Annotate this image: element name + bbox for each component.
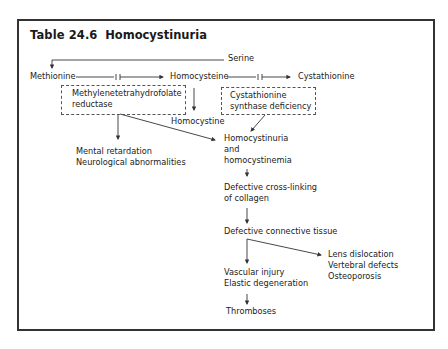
homocystinuria-line3: homocystinemia [224, 155, 292, 166]
vascular-line1: Vascular injury [224, 267, 284, 278]
vascular-line2: Elastic degeneration [224, 278, 308, 289]
collagen-line2: of collagen [224, 193, 269, 204]
connective-tissue-label: Defective connective tissue [224, 226, 337, 237]
homocystinuria-line1: Homocystinuria [224, 133, 288, 144]
serine-to-methionine-arrow [52, 60, 224, 68]
homocysteine-label: Homocysteine [170, 71, 229, 82]
mthfr-label-line2: reductase [72, 99, 113, 110]
skeletal-line3: Osteoporosis [328, 271, 381, 282]
cbs-label-line2: synthase deficiency [230, 101, 311, 112]
cbs-label-line1: Cystathionine [230, 90, 286, 101]
skeletal-line2: Vertebral defects [328, 260, 398, 271]
skeletal-line1: Lens dislocation [328, 249, 394, 260]
neuro-outcome-line2: Neurological abnormalities [76, 157, 186, 168]
cystathionine-label: Cystathionine [298, 71, 354, 82]
serine-label: Serine [228, 53, 254, 64]
pathway-arrows [0, 0, 448, 349]
methionine-label: Methionine [30, 71, 75, 82]
thromboses-label: Thromboses [226, 306, 276, 317]
neuro-outcome-line1: Mental retardation [76, 146, 152, 157]
collagen-line1: Defective cross-linking [224, 182, 317, 193]
homocystinuria-line2: and [224, 144, 239, 155]
homocystine-label: Homocystine [171, 116, 224, 127]
mthfr-label-line1: Methylenetetrahydrofolate [72, 88, 182, 99]
